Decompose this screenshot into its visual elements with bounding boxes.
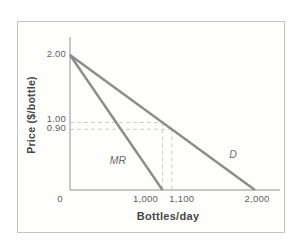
x-tick-label-1,000: 1,000 <box>133 193 158 204</box>
economics-figure-canvas: 2.001.000.9001,0001,1002,000 Price ($/bo… <box>0 0 301 249</box>
demand-curve-label: D <box>229 148 237 160</box>
x-axis-title: Bottles/day <box>137 210 200 222</box>
x-tick-label-2,000: 2,000 <box>245 193 270 204</box>
x-tick-label-1,100: 1,100 <box>169 193 194 204</box>
y-axis-title: Price ($/bottle) <box>25 76 37 154</box>
x-tick-label-0: 0 <box>57 193 62 204</box>
y-tick-label-2.00: 2.00 <box>34 48 66 59</box>
y-tick-label-0.90: 0.90 <box>34 122 66 133</box>
marginal-revenue-curve-label: MR <box>110 154 126 166</box>
